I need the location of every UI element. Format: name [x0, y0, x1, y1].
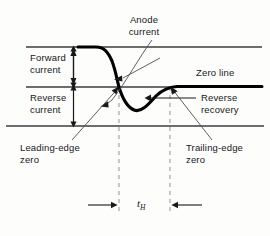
reverse-recovery-arrowhead — [145, 95, 152, 102]
leading-edge-zero-label: Leading-edge zero — [20, 142, 102, 165]
zero-line-label: Zero line — [196, 67, 234, 79]
hold-off-time-subscript: H — [140, 203, 145, 212]
forward-current-label: Forward current — [30, 52, 86, 75]
th-left-arrowhead — [111, 202, 118, 208]
diagram-canvas: Anode current Forward current Reverse cu… — [0, 0, 270, 236]
hold-off-time-label: tH — [137, 197, 145, 212]
anode-current-leader-upper — [123, 58, 160, 78]
anode-current-leader-lower — [112, 40, 152, 100]
reverse-recovery-label: Reverse recovery — [201, 92, 263, 115]
anode-current-label: Anode current — [112, 14, 176, 37]
spacer — [118, 72, 150, 78]
reverse-current-label: Reverse current — [30, 92, 86, 115]
th-right-arrowhead — [171, 202, 178, 208]
trailing-edge-zero-label: Trailing-edge zero — [186, 142, 268, 165]
